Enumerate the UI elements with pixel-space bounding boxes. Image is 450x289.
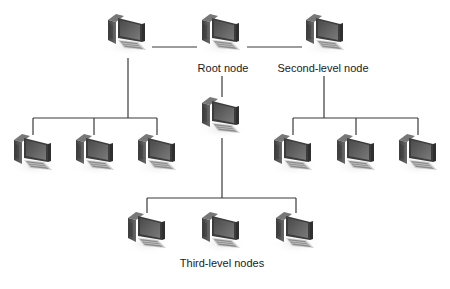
computer-icon[interactable]	[9, 134, 59, 176]
computer-icon[interactable]	[394, 134, 444, 176]
second-level-node-label: Second-level node	[277, 62, 368, 74]
computer-nodes	[9, 14, 444, 254]
computer-icon[interactable]	[133, 134, 183, 176]
root-node-label: Root node	[198, 62, 249, 74]
computer-icon[interactable]	[103, 14, 153, 56]
third-level-nodes-label: Third-level nodes	[180, 257, 264, 269]
tree-topology-diagram	[0, 0, 450, 289]
computer-icon[interactable]	[197, 14, 247, 56]
computer-icon[interactable]	[301, 14, 351, 56]
computer-icon[interactable]	[197, 212, 247, 254]
computer-icon[interactable]	[197, 97, 247, 139]
computer-icon[interactable]	[269, 134, 319, 176]
computer-icon[interactable]	[271, 212, 321, 254]
computer-icon[interactable]	[332, 134, 382, 176]
computer-icon[interactable]	[123, 212, 173, 254]
computer-icon[interactable]	[71, 134, 121, 176]
